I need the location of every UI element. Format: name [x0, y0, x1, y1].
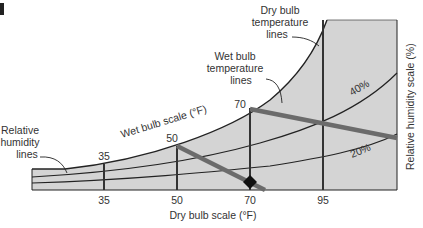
wet-bulb-label-line1: Wet bulb: [214, 50, 255, 62]
rh-label-line1: Relative: [1, 124, 39, 136]
x-tick-95: 95: [317, 194, 329, 206]
corner-mark: [0, 3, 4, 15]
x-tick-35: 35: [98, 194, 110, 206]
dry-bulb-label-line3: lines: [266, 28, 288, 40]
wet-bulb-label-line3: lines: [230, 74, 252, 86]
rh-label-line3: lines: [16, 148, 38, 160]
psychrometric-chart: Dry bulb temperature lines Wet bulb temp…: [0, 0, 423, 228]
x-tick-50: 50: [171, 194, 183, 206]
rh-label-line2: humidity: [0, 136, 40, 148]
dry-bulb-label-line1: Dry bulb: [260, 4, 299, 16]
x-axis-title: Dry bulb scale (°F): [169, 209, 256, 221]
dry-bulb-label-line2: temperature: [252, 16, 309, 28]
wet-bulb-tick-50: 50: [166, 132, 178, 144]
wet-bulb-tick-35: 35: [98, 150, 110, 162]
rh-scale-title: Relative humidity scale (%): [404, 43, 416, 170]
x-tick-70: 70: [244, 194, 256, 206]
wet-bulb-label-line2: temperature: [207, 62, 264, 74]
wet-bulb-tick-70: 70: [234, 98, 246, 110]
wet-bulb-scale-label: Wet bulb scale (°F): [119, 102, 208, 140]
dry-bulb-lines-arrow: [292, 37, 319, 46]
